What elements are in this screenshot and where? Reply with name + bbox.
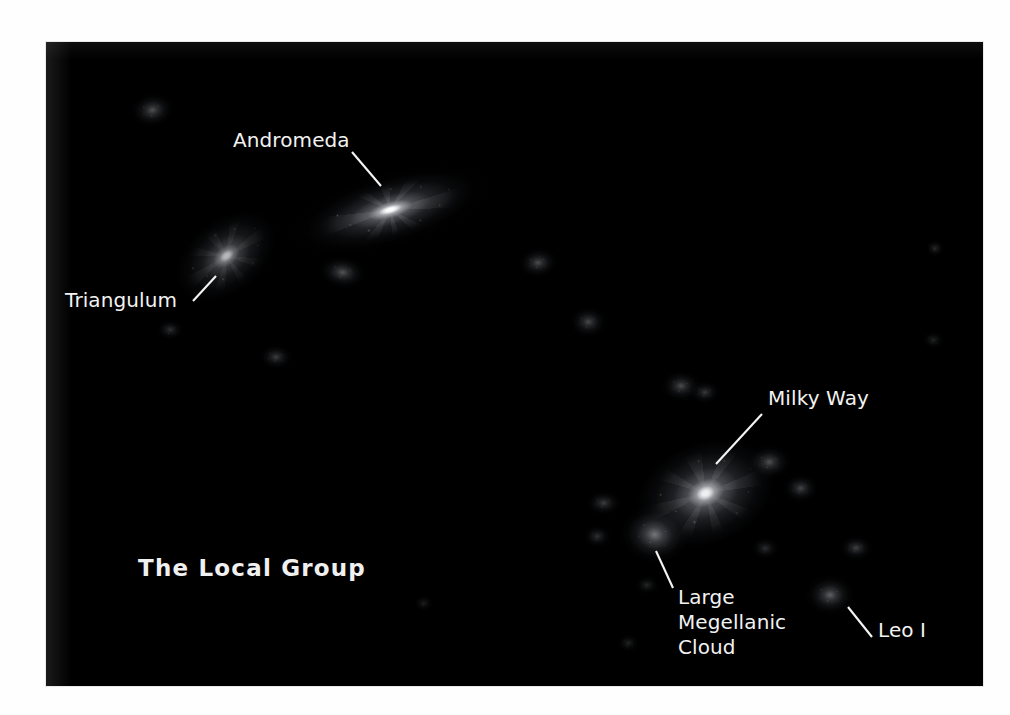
galaxy-blob <box>749 535 781 560</box>
galaxy-blob <box>805 574 855 616</box>
galaxy-speckle <box>627 424 786 562</box>
galaxy-core <box>215 246 237 267</box>
galaxy-blob <box>126 88 179 133</box>
galaxy-fuzz <box>574 310 603 334</box>
galaxy-dwarf-01 <box>123 88 180 132</box>
leader-line-triangulum <box>193 276 216 301</box>
galaxy-blob <box>633 575 660 596</box>
galaxy-dwarf-13 <box>746 532 785 563</box>
galaxy-speckle <box>164 197 289 315</box>
galaxy-blob <box>615 633 640 654</box>
galaxy-fuzz <box>133 94 171 126</box>
galaxy-blob <box>155 318 184 341</box>
galaxy-fuzz <box>843 538 869 558</box>
galaxy-fuzz <box>590 493 617 513</box>
galaxy-fuzz <box>637 578 657 593</box>
galaxy-dwarf-14 <box>630 572 664 598</box>
galaxy-blob <box>660 369 702 403</box>
leader-line-layer <box>46 42 983 686</box>
leader-line-leo-i <box>848 607 872 637</box>
galaxy-dwarf-11 <box>581 486 628 520</box>
galaxy-dwarf-02 <box>312 251 374 293</box>
galaxy-fuzz <box>626 510 684 560</box>
galaxy-dwarf-10 <box>778 469 825 508</box>
annotation-layer: AndromedaTriangulumMilky WayLarge Megell… <box>46 42 983 686</box>
galaxy-dwarf-08 <box>684 376 726 407</box>
label-milky-way: Milky Way <box>768 386 869 411</box>
galaxy-blob <box>688 379 722 404</box>
galaxy-dwarf-07 <box>655 365 707 407</box>
galaxy-arms <box>311 164 469 256</box>
galaxy-blob <box>838 534 874 561</box>
galaxy-dwarf-03 <box>512 243 564 282</box>
galaxy-fuzz <box>753 449 786 475</box>
galaxy-fuzz <box>924 333 942 348</box>
galaxy-fuzz <box>323 258 362 287</box>
leader-line-milky-way <box>716 414 762 464</box>
galaxy-core <box>692 481 720 505</box>
leader-line-andromeda <box>352 152 381 186</box>
galaxy-dwarf-19 <box>410 591 439 614</box>
galaxy-fuzz <box>928 241 943 255</box>
label-leo-i: Leo I <box>878 618 926 643</box>
galaxy-fuzz <box>787 477 814 500</box>
galaxy-disc <box>145 179 307 332</box>
label-triangulum: Triangulum <box>65 288 177 313</box>
galaxy-dwarf-16 <box>922 236 948 259</box>
galaxy-blob <box>920 330 945 351</box>
galaxy-fuzz <box>812 580 848 610</box>
galaxy-blob <box>258 343 294 370</box>
galaxy-dwarf-06 <box>152 316 188 345</box>
galaxy-dwarf-05 <box>254 340 298 374</box>
galaxy-dwarf-04 <box>563 301 612 343</box>
galaxy-leo-i <box>799 569 861 621</box>
galaxy-blob <box>746 444 792 480</box>
galaxy-fuzz <box>263 347 289 367</box>
galaxy-dwarf-09 <box>740 440 797 484</box>
galaxy-fuzz <box>754 539 777 557</box>
galaxy-blob <box>515 244 560 280</box>
galaxy-blob <box>581 523 613 548</box>
galaxy-blob <box>925 239 946 258</box>
galaxy-fuzz <box>522 249 554 275</box>
galaxy-blob <box>568 305 608 339</box>
galaxy-fuzz <box>693 383 717 401</box>
label-andromeda: Andromeda <box>233 128 350 153</box>
galaxy-arms <box>634 430 779 556</box>
galaxy-disc <box>603 404 808 582</box>
galaxy-dwarf-15 <box>834 531 878 565</box>
galaxy-fuzz <box>586 527 609 545</box>
galaxy-blob <box>412 594 435 613</box>
page-title: The Local Group <box>138 555 366 581</box>
galaxy-andromeda <box>265 166 515 254</box>
scan-vignette <box>46 42 983 686</box>
galaxy-dwarf-17 <box>917 327 948 353</box>
galaxy-blob <box>615 500 696 570</box>
galaxy-lmc <box>611 499 699 572</box>
galaxy-fuzz <box>416 596 433 610</box>
galaxy-blob <box>782 472 820 504</box>
leader-line-large-megellanic-cloud <box>656 551 673 588</box>
sky-plate: AndromedaTriangulumMilky WayLarge Megell… <box>46 42 983 686</box>
galaxy-fuzz <box>619 636 637 651</box>
galaxy-arms <box>169 202 283 310</box>
galaxy-speckle <box>304 160 477 261</box>
galaxy-dwarf-12 <box>578 520 617 551</box>
galaxy-triangulum <box>145 204 306 308</box>
galaxy-disc <box>278 145 502 275</box>
figure-root: AndromedaTriangulumMilky WayLarge Megell… <box>0 0 1010 715</box>
label-large-megellanic-cloud: Large Megellanic Cloud <box>678 585 786 660</box>
galaxy-fuzz <box>159 322 180 339</box>
galaxy-blob <box>316 252 371 292</box>
galaxy-milky-way <box>605 420 808 566</box>
galaxy-fuzz <box>666 374 696 398</box>
galaxy-blob <box>585 489 623 516</box>
galaxy-dwarf-18 <box>612 630 643 656</box>
galaxy-core <box>375 201 405 219</box>
